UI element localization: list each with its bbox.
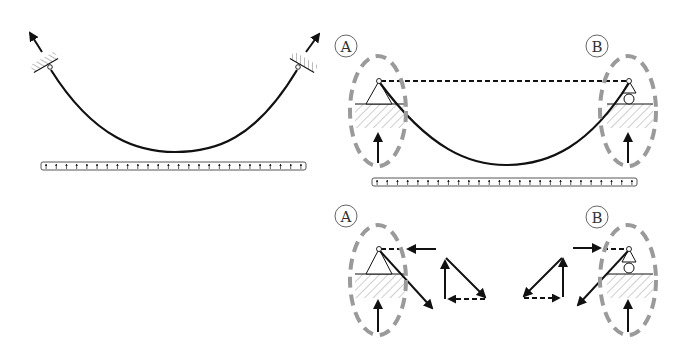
pin-support-a-bottom — [366, 249, 392, 274]
label-b-top: B — [586, 35, 608, 57]
right-anchor-pin — [296, 65, 301, 70]
right-anchor-tension-arrow — [306, 34, 319, 52]
svg-text:B: B — [591, 209, 602, 227]
panel-left-fixed-anchors — [30, 33, 319, 170]
pin-a-bottom — [377, 247, 382, 252]
roller-wheel-b-top — [624, 94, 634, 104]
label-a-bottom: A — [335, 205, 357, 227]
uniform-load-bar-top-right — [372, 178, 637, 186]
left-fixed-anchor — [30, 52, 58, 73]
pin-b-bottom — [627, 247, 632, 252]
ground-hatch-b-top — [607, 104, 653, 128]
svg-text:A: A — [340, 208, 352, 226]
ground-hatch-b-bottom — [607, 274, 653, 298]
panel-bottom-right-force-triangles: A B — [335, 205, 656, 335]
svg-text:A: A — [340, 38, 352, 56]
label-a-top: A — [335, 35, 357, 57]
ground-hatch-a-top — [355, 104, 405, 128]
roller-wheel-b-bottom — [624, 263, 634, 273]
cable-left — [51, 70, 297, 152]
force-triangle-a — [445, 258, 485, 299]
pin-b-top — [627, 79, 632, 84]
left-anchor-pin — [48, 65, 53, 70]
left-anchor-tension-arrow — [30, 33, 42, 52]
cable-top-right — [380, 83, 629, 165]
label-b-bottom: B — [586, 206, 608, 228]
panel-top-right-pin-roller: A B — [335, 35, 656, 186]
svg-text:B: B — [591, 38, 602, 56]
ground-hatch-a-bottom — [355, 274, 405, 298]
uniform-load-bar-left — [41, 162, 306, 170]
right-fixed-anchor — [290, 52, 318, 73]
cable-diagram: A B — [0, 0, 689, 360]
force-triangle-b — [524, 258, 563, 298]
pin-a-top — [377, 79, 382, 84]
